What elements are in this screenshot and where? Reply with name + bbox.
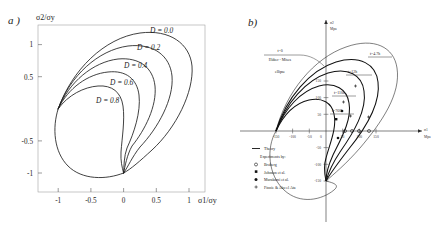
panel-a-plot: -1 -0.5 0 0.5 1 1 0.5 -0.5 -1 σ2/σy σ1/σ…	[0, 0, 221, 245]
panel-b-legend: Theory Experiments by: Broberg Johnson e…	[252, 147, 296, 190]
panel-b-ytick-0: 150	[316, 79, 322, 83]
legend-theory-label: Theory	[264, 147, 275, 151]
open-circle-marker	[255, 163, 258, 166]
curve-b-label-t110h: t=110h	[332, 91, 356, 96]
annotation-huber-mises: t=0 Hüber - Mises ellipse	[264, 49, 324, 74]
panel-a-xtick-4: 1	[187, 197, 191, 205]
legend-item-label-3: Finnie & Abo el Ata	[264, 186, 296, 190]
figure-root: a ) -1 -0.5 0 0.5	[0, 0, 443, 245]
curve-label-D-0.8: D = 0.8	[95, 96, 120, 105]
data-points-finnie	[342, 85, 370, 119]
plus-marker	[255, 185, 258, 188]
curve-b-label-text-1: t=12h	[348, 70, 357, 74]
curve-b-label-t4.7h: t=4.7h	[368, 52, 392, 57]
panel-b-ytick-3: -50	[316, 146, 321, 150]
curve-b-label-text-0: t=4.7h	[370, 52, 380, 56]
panel-a-ytick-0: 1	[29, 41, 33, 49]
panel-a-yticks	[38, 45, 42, 173]
panel-a-ytick-1: 0.5	[24, 74, 33, 82]
curve-D-0.2	[58, 46, 172, 173]
filled-square-marker	[255, 170, 258, 173]
panel-b-xtick-2: -50	[307, 135, 312, 139]
panel-b-ytick-2: 50	[317, 113, 321, 117]
annotation-line1: t=0	[277, 49, 282, 53]
curve-label-D-0.0: D = 0.0	[149, 26, 174, 35]
panel-a-frame	[38, 25, 205, 192]
annotation-line3: ellipse	[275, 70, 285, 74]
legend-item-label-0: Broberg	[264, 163, 277, 167]
plus-marker	[354, 85, 357, 88]
annotation-line2: Hüber - Mises	[269, 58, 292, 62]
curve-D-0.4	[58, 59, 155, 173]
panel-a-ytick-3: -1	[27, 170, 33, 178]
panel-b-yaxis-arrow	[324, 20, 328, 24]
panel-b-ylabel-unit: Mpa	[330, 27, 337, 31]
panel-a-xtick-3: 0.5	[152, 197, 161, 205]
curve-D-0.0	[58, 32, 192, 173]
legend-experiments-header: Experiments by:	[260, 155, 286, 159]
panel-b-xlabel-symbol: σ1	[424, 128, 428, 132]
panel-b-ytick-5: -150	[314, 179, 321, 183]
filled-square-marker	[335, 118, 337, 120]
filled-circle-marker	[255, 178, 258, 181]
curve-b-label-text-2: t=110h	[334, 91, 345, 95]
panel-a-xtick-1: -0.5	[85, 197, 97, 205]
panel-b-tag: b)	[248, 16, 257, 28]
curve-compressive-lobe	[55, 109, 124, 178]
panel-b-xlabel-unit: Mpa	[424, 135, 431, 139]
curve-label-D-0.2: D = 0.2	[136, 43, 161, 52]
panel-a-ylabel: σ2/σy	[36, 13, 55, 22]
curve-b-t4.7h	[276, 60, 378, 181]
filled-circle-marker	[337, 137, 340, 140]
panel-b-plot: -150 -100 -50 0 50 100 150 150 100 50 -5…	[222, 0, 443, 245]
legend-item-label-2: Murakami et al.	[264, 178, 289, 182]
panel-b-xaxis-arrow	[418, 129, 422, 133]
panel-a-xticks	[58, 188, 189, 192]
plus-marker	[342, 101, 345, 104]
panel-b-xtick-6: 150	[373, 135, 379, 139]
panel-b-xtick-1: -100	[289, 135, 296, 139]
panel-b-ytick-4: -100	[314, 163, 321, 167]
legend-item-label-1: Johnson et al.	[264, 171, 285, 175]
panel-a-xtick-2: 0	[122, 197, 126, 205]
panel-b: b)	[222, 0, 443, 245]
curve-label-D-0.6: D = 0.6	[109, 78, 134, 87]
panel-a-xlabel: σ1/σy	[198, 196, 217, 205]
curve-b-label-t12h: t=12h	[346, 70, 372, 75]
panel-a-tag: a )	[8, 14, 20, 26]
curve-label-D-0.4: D = 0.4	[123, 61, 148, 70]
data-points-johnson	[335, 118, 337, 120]
panel-a: a ) -1 -0.5 0 0.5	[0, 0, 221, 245]
filled-circle-marker	[341, 110, 344, 113]
panel-b-xtick-3: 0	[320, 135, 322, 139]
panel-b-ylabel-symbol: σ2	[330, 21, 334, 25]
panel-a-ytick-2: -0.5	[22, 138, 34, 146]
panel-a-xtick-0: -1	[55, 197, 61, 205]
